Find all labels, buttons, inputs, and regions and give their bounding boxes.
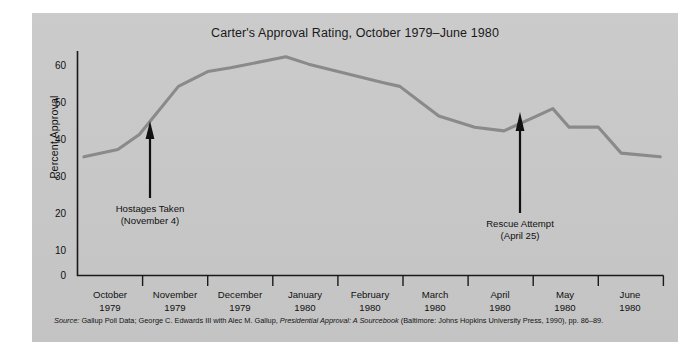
x-tick-april-1980: April 1980 bbox=[467, 289, 533, 314]
approval-line bbox=[84, 57, 660, 157]
x-tick-month: June bbox=[597, 289, 663, 302]
x-tick-october-1979: October 1979 bbox=[77, 289, 143, 314]
x-tick-year: 1980 bbox=[272, 302, 338, 315]
x-tick-year: 1980 bbox=[337, 302, 403, 315]
x-tick-month: February bbox=[337, 289, 403, 302]
annotation-rescue-line1: Rescue Attempt bbox=[486, 218, 554, 229]
chart-figure: Carter's Approval Rating, October 1979–J… bbox=[32, 13, 678, 342]
annotation-hostages-line2: (November 4) bbox=[90, 215, 210, 227]
x-tick-year: 1980 bbox=[532, 302, 598, 315]
annotation-rescue-attempt: Rescue Attempt (April 25) bbox=[460, 218, 580, 242]
x-tick-february-1980: February 1980 bbox=[337, 289, 403, 314]
event-arrow-hostages bbox=[146, 121, 155, 198]
x-tick-month: December bbox=[207, 289, 273, 302]
x-tick-year: 1980 bbox=[597, 302, 663, 315]
x-tick-year: 1980 bbox=[467, 302, 533, 315]
x-tick-month: March bbox=[402, 289, 468, 302]
x-tick-year: 1979 bbox=[77, 302, 143, 315]
x-tick-month: November bbox=[142, 289, 208, 302]
x-tick-december-1979: December 1979 bbox=[207, 289, 273, 314]
x-tick-year: 1980 bbox=[402, 302, 468, 315]
x-tick-november-1979: November 1979 bbox=[142, 289, 208, 314]
x-tick-month: January bbox=[272, 289, 338, 302]
x-axis-ticks bbox=[143, 276, 664, 287]
x-tick-month: April bbox=[467, 289, 533, 302]
x-tick-march-1980: March 1980 bbox=[402, 289, 468, 314]
x-tick-january-1980: January 1980 bbox=[272, 289, 338, 314]
event-arrow-rescue bbox=[516, 112, 525, 213]
x-tick-year: 1979 bbox=[142, 302, 208, 315]
source-italic-title: Presidential Approval: A Sourcebook bbox=[280, 316, 399, 325]
annotation-hostages-line1: Hostages Taken bbox=[116, 203, 185, 214]
source-label: Source: bbox=[54, 316, 79, 325]
x-tick-month: May bbox=[532, 289, 598, 302]
x-tick-month: October bbox=[77, 289, 143, 302]
x-tick-year: 1979 bbox=[207, 302, 273, 315]
source-note: Source: Gallup Poll Data; George C. Edwa… bbox=[54, 316, 674, 325]
annotation-rescue-line2: (April 25) bbox=[460, 230, 580, 242]
source-text-before: Gallup Poll Data; George C. Edwards III … bbox=[79, 316, 279, 325]
annotation-hostages-taken: Hostages Taken (November 4) bbox=[90, 203, 210, 227]
x-tick-may-1980: May 1980 bbox=[532, 289, 598, 314]
source-text-after: (Baltimore: Johns Hopkins University Pre… bbox=[399, 316, 604, 325]
x-tick-june-1980: June 1980 bbox=[597, 289, 663, 314]
